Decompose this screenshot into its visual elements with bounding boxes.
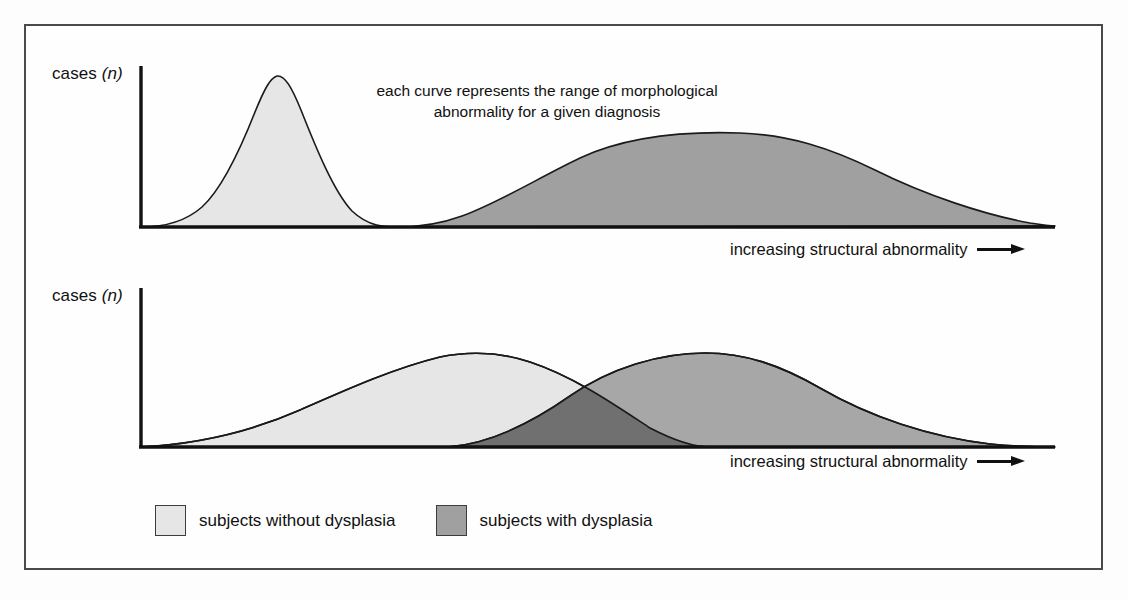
x-axis-label-top-text: increasing structural abnormality <box>730 240 968 259</box>
dark-swatch-icon <box>436 505 467 536</box>
y-axis-label-bottom: cases (n) <box>52 286 123 306</box>
annotation-text: each curve represents the range of morph… <box>352 80 742 122</box>
y-axis-label-top-unit: (n) <box>102 64 123 83</box>
annotation-line-1: each curve represents the range of morph… <box>376 82 717 99</box>
y-axis-label-top-text: cases <box>52 64 97 83</box>
figure-root: cases (n) cases (n) each curve represent… <box>0 0 1128 600</box>
x-axis-label-top: increasing structural abnormality <box>730 240 1027 259</box>
y-axis-label-bottom-unit: (n) <box>102 286 123 305</box>
legend-item-without-dysplasia: subjects without dysplasia <box>155 505 396 536</box>
legend-item-with-dysplasia: subjects with dysplasia <box>436 505 653 536</box>
y-axis-label-top: cases (n) <box>52 64 123 84</box>
y-axis-label-bottom-text: cases <box>52 286 97 305</box>
legend-label-with-dysplasia: subjects with dysplasia <box>480 511 653 531</box>
x-axis-label-bottom-text: increasing structural abnormality <box>730 452 968 471</box>
legend-label-without-dysplasia: subjects without dysplasia <box>199 511 396 531</box>
x-axis-label-bottom: increasing structural abnormality <box>730 452 1027 471</box>
legend: subjects without dysplasia subjects with… <box>155 505 652 536</box>
right-arrow-icon <box>977 456 1027 467</box>
light-swatch-icon <box>155 505 186 536</box>
right-arrow-icon <box>977 244 1027 255</box>
annotation-line-2: abnormality for a given diagnosis <box>434 103 661 120</box>
